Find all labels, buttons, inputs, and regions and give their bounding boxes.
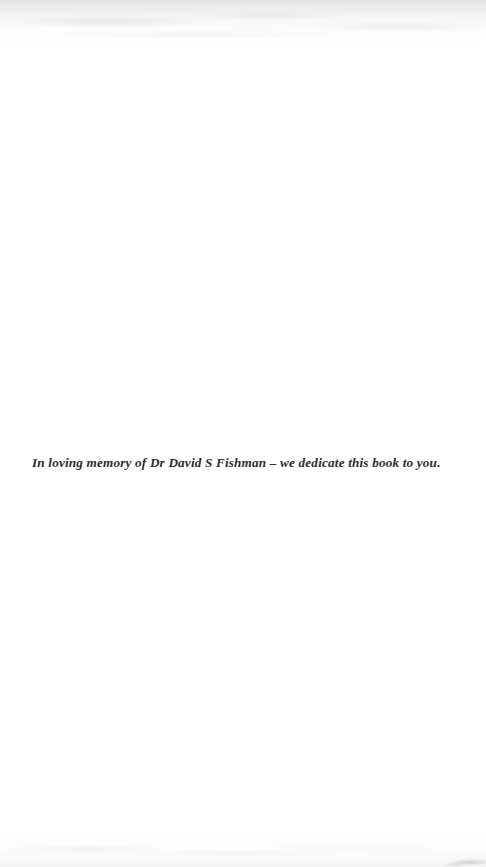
dedication-page: In loving memory of Dr David S Fishman –… <box>0 0 486 867</box>
scan-corner-smudge <box>434 851 486 867</box>
dedication-text: In loving memory of Dr David S Fishman –… <box>32 455 462 471</box>
scan-top-mottling <box>0 8 486 42</box>
scan-bottom-mottling <box>0 835 486 861</box>
scan-top-shadow <box>0 0 486 46</box>
scan-bottom-shadow <box>0 827 486 867</box>
